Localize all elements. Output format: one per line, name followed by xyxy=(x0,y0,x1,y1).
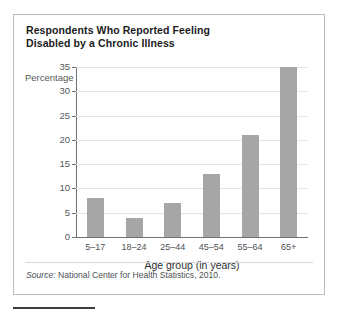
x-axis-line xyxy=(76,237,308,238)
bar xyxy=(87,198,104,237)
gridline-10 xyxy=(76,188,308,189)
y-tick-mark-25 xyxy=(72,116,76,117)
chart-title: Respondents Who Reported Feeling Disable… xyxy=(26,24,306,49)
gridline-35 xyxy=(76,67,308,68)
y-tick-mark-5 xyxy=(72,213,76,214)
bar xyxy=(126,218,143,237)
plot-area: 05101520253035 5–1718–2425–4445–5455–646… xyxy=(76,67,308,237)
chart-title-line1: Respondents Who Reported Feeling xyxy=(26,24,210,36)
source-prefix: Source: xyxy=(26,270,56,280)
chart-title-line2: Disabled by a Chronic Illness xyxy=(26,37,306,50)
bar xyxy=(164,203,181,237)
bar xyxy=(203,174,220,237)
source-text: National Center for Health Statistics, 2… xyxy=(58,270,220,280)
bar xyxy=(280,67,297,237)
x-tick-label: 65+ xyxy=(263,242,315,252)
y-tick-label-0: 0 xyxy=(46,232,70,242)
y-tick-label-35: 35 xyxy=(46,62,70,72)
y-tick-label-20: 20 xyxy=(46,135,70,145)
bar xyxy=(242,135,259,237)
y-tick-label-15: 15 xyxy=(46,159,70,169)
gridline-5 xyxy=(76,213,308,214)
bottom-rule xyxy=(13,307,95,309)
y-tick-mark-20 xyxy=(72,140,76,141)
footer-divider xyxy=(25,262,313,263)
y-tick-mark-35 xyxy=(72,67,76,68)
y-tick-label-25: 25 xyxy=(46,111,70,121)
y-tick-mark-30 xyxy=(72,91,76,92)
gridline-15 xyxy=(76,164,308,165)
gridline-25 xyxy=(76,116,308,117)
y-tick-mark-0 xyxy=(72,237,76,238)
y-tick-label-5: 5 xyxy=(46,208,70,218)
gridline-30 xyxy=(76,91,308,92)
gridline-20 xyxy=(76,140,308,141)
y-tick-mark-15 xyxy=(72,164,76,165)
y-tick-label-30: 30 xyxy=(46,86,70,96)
figure-card: Respondents Who Reported Feeling Disable… xyxy=(13,14,325,295)
y-axis-label: Percentage xyxy=(25,72,74,83)
source-note: Source: National Center for Health Stati… xyxy=(26,270,312,281)
y-tick-mark-10 xyxy=(72,188,76,189)
y-tick-label-10: 10 xyxy=(46,183,70,193)
